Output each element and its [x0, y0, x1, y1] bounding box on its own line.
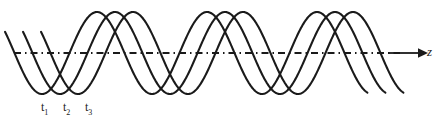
- time-label-t1-subscript: 1: [44, 108, 48, 117]
- wave-figure: t1 t2 t3 z: [0, 0, 439, 126]
- time-label-t2: t2: [63, 101, 70, 116]
- time-label-t3: t3: [85, 101, 92, 116]
- z-axis-label: z: [427, 45, 432, 58]
- time-label-t3-subscript: 3: [88, 108, 92, 117]
- time-label-t1: t1: [41, 101, 48, 116]
- time-label-t2-subscript: 2: [66, 108, 70, 117]
